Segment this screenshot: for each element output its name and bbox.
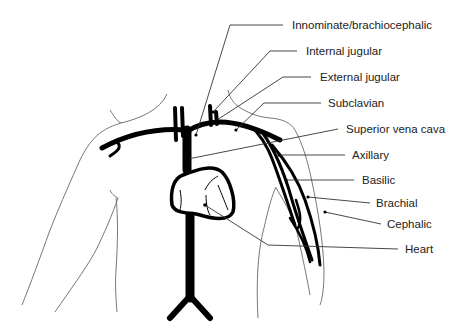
label-external-jugular: External jugular bbox=[320, 71, 400, 84]
label-cephalic: Cephalic bbox=[387, 218, 432, 231]
label-basilic: Basilic bbox=[362, 174, 395, 187]
vein-diagram: Innominate/brachiocephalic Internal jugu… bbox=[0, 0, 464, 336]
label-superior-vena-cava: Superior vena cava bbox=[346, 123, 445, 136]
heart bbox=[171, 168, 233, 218]
label-heart: Heart bbox=[405, 243, 433, 256]
label-internal-jugular: Internal jugular bbox=[306, 45, 382, 58]
label-innominate: Innominate/brachiocephalic bbox=[292, 19, 432, 32]
label-brachial: Brachial bbox=[376, 197, 418, 210]
label-axillary: Axillary bbox=[352, 149, 389, 162]
label-subclavian: Subclavian bbox=[328, 97, 384, 110]
anatomy-illustration bbox=[0, 0, 464, 336]
